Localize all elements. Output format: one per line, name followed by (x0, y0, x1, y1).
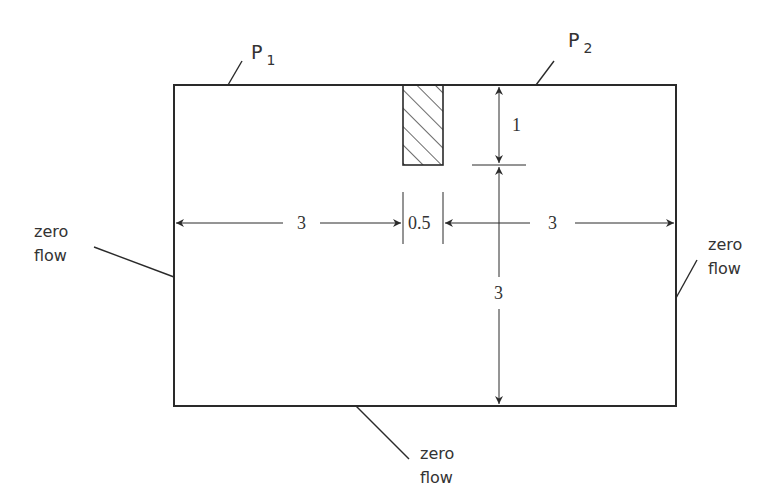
left-bc-line2: flow (34, 246, 68, 266)
p2-leader (536, 61, 554, 85)
left-bc-leader (94, 247, 174, 277)
dim-label-obstacle-width: 0.5 (408, 213, 431, 233)
p1-main: P (251, 41, 262, 63)
p2-main: P (568, 29, 579, 51)
right-bc-leader (676, 260, 697, 298)
right-bc-line1: zero (708, 235, 742, 255)
left-bc-line1: zero (34, 222, 68, 242)
bottom-bc-line2: flow (420, 468, 454, 488)
dim-label-lower-height: 3 (494, 277, 503, 309)
dim-label-obstacle-depth: 1 (512, 115, 521, 135)
label-left-bc: zero flow (34, 222, 68, 266)
dim-label-right-width: 3 (530, 213, 575, 233)
bottom-bc-leader (356, 406, 409, 459)
diagram-canvas (0, 0, 783, 501)
label-p1: P1 (251, 42, 275, 64)
p2-sub: 2 (583, 40, 592, 56)
label-right-bc: zero flow (708, 235, 742, 279)
right-bc-line2: flow (708, 259, 742, 279)
dim-label-left-width: 3 (283, 213, 320, 233)
p1-leader (228, 61, 242, 85)
p1-sub: 1 (266, 52, 275, 68)
obstacle-block (403, 85, 443, 165)
label-p2: P2 (568, 30, 592, 52)
label-bottom-bc: zero flow (420, 444, 454, 488)
bottom-bc-line1: zero (420, 444, 454, 464)
